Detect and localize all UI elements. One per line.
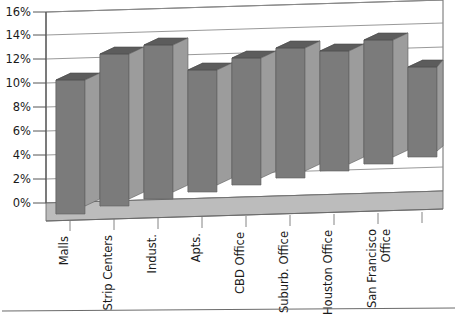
y-tick-2: 2% bbox=[13, 172, 31, 186]
y-tick-6: 6% bbox=[13, 124, 31, 138]
bottom-rule bbox=[2, 308, 455, 311]
bar-chart-3d: 16% 14% 12% 10% 8% 6% 4% 2% 0% Malls S bbox=[0, 0, 457, 326]
bar-malls bbox=[56, 73, 100, 214]
category-label-indust: Indust. bbox=[145, 234, 159, 273]
y-tick-14: 14% bbox=[5, 28, 31, 42]
x-category-labels: Malls Strip Centers Indust. Apts. CBD Of… bbox=[57, 229, 393, 315]
category-label-apts: Apts. bbox=[189, 233, 203, 262]
bar-cbd-office bbox=[232, 51, 276, 185]
chart-svg: 16% 14% 12% 10% 8% 6% 4% 2% 0% Malls S bbox=[0, 0, 457, 326]
category-label-cbd-office: CBD Office bbox=[233, 232, 247, 294]
category-label-houston-office: Houston Office bbox=[321, 230, 335, 315]
y-axis bbox=[33, 12, 46, 203]
category-label-malls: Malls bbox=[57, 236, 71, 265]
category-label-strip-centers: Strip Centers bbox=[101, 235, 115, 310]
bar-san-francisco-office bbox=[364, 33, 408, 164]
y-tick-8: 8% bbox=[13, 100, 31, 114]
category-label-suburb-office: Suburb. Office bbox=[277, 231, 291, 313]
bar-suburb-office bbox=[276, 41, 320, 178]
y-tick-4: 4% bbox=[13, 148, 31, 162]
bar-indust bbox=[144, 38, 188, 199]
y-tick-10: 10% bbox=[5, 76, 31, 90]
bar-trailing bbox=[408, 60, 443, 157]
category-label-san-francisco-office-line2: Office bbox=[379, 229, 393, 263]
bar-houston-office bbox=[320, 44, 364, 171]
bar-apts bbox=[188, 63, 232, 192]
y-tick-labels: 16% 14% 12% 10% 8% 6% 4% 2% 0% bbox=[5, 5, 31, 210]
y-tick-0: 0% bbox=[13, 196, 31, 210]
bar-strip-centers bbox=[100, 47, 144, 206]
category-label-san-francisco: San Francisco bbox=[365, 229, 379, 308]
y-tick-16: 16% bbox=[5, 5, 31, 19]
y-tick-12: 12% bbox=[5, 52, 31, 66]
